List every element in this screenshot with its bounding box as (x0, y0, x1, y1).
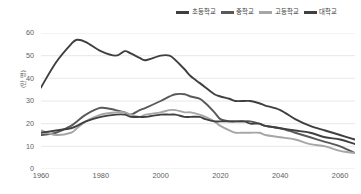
legend-swatch-high (259, 11, 272, 14)
x-tick-label: 1960 (24, 172, 58, 179)
series-line (41, 114, 355, 144)
legend-swatch-elementary (176, 11, 189, 14)
legend-label-middle: 중학교 (236, 9, 254, 15)
chart-legend: 초등학교 중학교 고등학교 대학교 (176, 6, 358, 19)
legend-swatch-university (304, 11, 317, 14)
y-tick-label: 60 (12, 29, 34, 36)
x-tick-label: 2020 (203, 172, 237, 179)
legend-item-university: 대학교 (304, 9, 338, 15)
legend-item-high: 고등학교 (259, 9, 299, 15)
x-tick-label: 2000 (144, 172, 178, 179)
legend-label-university: 대학교 (319, 9, 337, 15)
chart-container: 초등학교 중학교 고등학교 대학교 (만 명) 60 50 40 30 20 1… (0, 0, 361, 194)
y-tick-label: 10 (12, 143, 34, 150)
series-line (41, 40, 355, 140)
legend-label-high: 고등학교 (275, 9, 299, 15)
line-chart-svg (41, 33, 355, 169)
x-tick-label: 2040 (263, 172, 297, 179)
y-tick-label: 30 (12, 97, 34, 104)
y-tick-label: 50 (12, 52, 34, 59)
data-lines (41, 40, 355, 153)
y-tick-label: 20 (12, 120, 34, 127)
gridlines (41, 33, 355, 169)
legend-label-elementary: 초등학교 (192, 9, 216, 15)
legend-item-middle: 중학교 (221, 9, 255, 15)
legend-item-elementary: 초등학교 (176, 9, 216, 15)
y-tick-label: 40 (12, 75, 34, 82)
x-tick-label: 1980 (84, 172, 118, 179)
legend-swatch-middle (221, 11, 234, 14)
x-tick-label: 2060 (323, 172, 357, 179)
plot-area (41, 33, 355, 169)
